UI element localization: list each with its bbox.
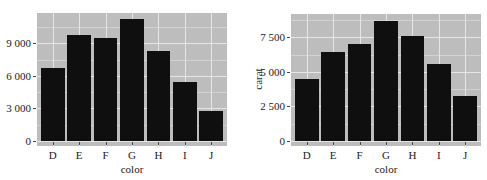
bar-E	[321, 52, 345, 141]
y-tick-mark	[287, 37, 290, 38]
x-tick-mark	[333, 142, 334, 145]
x-tick-mark	[360, 142, 361, 145]
x-tick-label: H	[402, 149, 422, 161]
bar-H	[401, 36, 425, 141]
x-tick-label: E	[323, 149, 343, 161]
y-tick-mark	[287, 141, 290, 142]
x-tick-label: J	[455, 149, 475, 161]
x-tick-mark	[307, 142, 308, 145]
y-tick-mark	[287, 106, 290, 107]
carat-by-color-chart: carat color 02 5005 0007 500DEFGHIJ	[0, 0, 487, 180]
bar-F	[348, 44, 372, 141]
bar-G	[374, 21, 398, 141]
x-tick-label: D	[297, 149, 317, 161]
x-tick-mark	[439, 142, 440, 145]
x-tick-label: G	[376, 149, 396, 161]
y-tick-label: 0	[245, 135, 285, 147]
bar-I	[427, 64, 451, 141]
x-tick-label: F	[350, 149, 370, 161]
y-tick-label: 7 500	[245, 31, 285, 43]
plot-panel	[291, 14, 481, 146]
x-tick-mark	[412, 142, 413, 145]
x-axis-title: color	[366, 163, 406, 175]
y-tick-label: 2 500	[245, 100, 285, 112]
bar-D	[295, 79, 319, 141]
x-tick-label: I	[429, 149, 449, 161]
y-tick-mark	[287, 72, 290, 73]
x-tick-mark	[465, 142, 466, 145]
x-tick-mark	[386, 142, 387, 145]
bar-J	[453, 96, 477, 141]
y-tick-label: 5 000	[245, 66, 285, 78]
